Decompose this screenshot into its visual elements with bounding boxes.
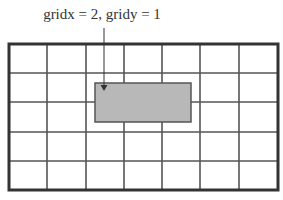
highlighted-component-cell xyxy=(95,83,191,122)
grid-diagram xyxy=(0,0,283,200)
